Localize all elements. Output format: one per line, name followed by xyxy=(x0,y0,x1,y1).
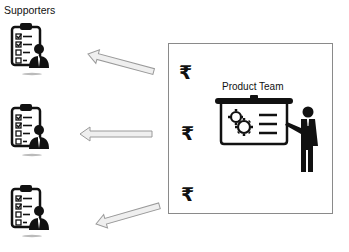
rupee-icon-2: ₹ xyxy=(181,122,194,144)
presenter-board-icon xyxy=(213,94,323,174)
gear-icon xyxy=(231,112,250,133)
arrow-to-supporter-1 xyxy=(86,47,155,78)
rupee-icon-1: ₹ xyxy=(179,61,192,83)
rupee-icon-3: ₹ xyxy=(181,183,194,205)
arrow-to-supporter-2 xyxy=(80,127,152,141)
arrow-to-supporter-3 xyxy=(94,199,161,231)
product-team-label: Product Team xyxy=(222,81,284,92)
